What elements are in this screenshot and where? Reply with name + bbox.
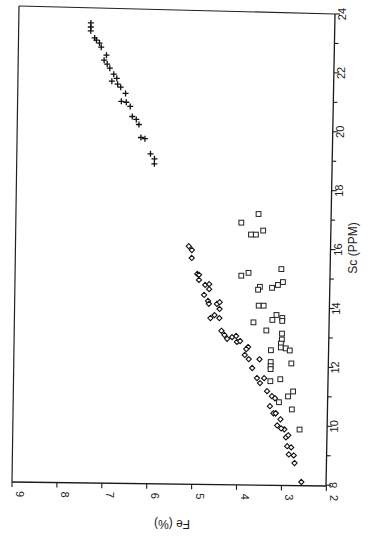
square-marker bbox=[256, 287, 261, 292]
fe-tick-label: 7 bbox=[104, 492, 116, 498]
plus-marker bbox=[142, 136, 148, 142]
square-marker bbox=[278, 345, 283, 350]
data-points bbox=[88, 20, 304, 485]
plus-marker bbox=[88, 28, 94, 34]
plus-marker bbox=[127, 103, 133, 109]
square-marker bbox=[261, 303, 266, 308]
diamond-marker bbox=[267, 404, 272, 409]
diamond-marker bbox=[257, 381, 262, 386]
square-marker bbox=[239, 273, 244, 278]
fe-axis-ticks: 23456789 bbox=[12, 482, 340, 501]
square-marker bbox=[280, 319, 285, 324]
diamond-marker bbox=[278, 417, 283, 422]
diamond-marker bbox=[217, 306, 222, 311]
plus-marker bbox=[147, 151, 153, 157]
sc-tick-label: 20 bbox=[334, 126, 346, 138]
scatter-chart: 23456789 81012141618202224 Fe (%) Sc (PP… bbox=[0, 0, 373, 547]
square-marker bbox=[291, 389, 296, 394]
plus-marker bbox=[138, 134, 144, 140]
diamond-marker bbox=[242, 352, 247, 357]
fe-tick-label: 2 bbox=[328, 495, 340, 501]
sc-tick-label: 22 bbox=[335, 67, 347, 79]
square-marker bbox=[274, 313, 279, 318]
sc-tick-label: 16 bbox=[332, 243, 344, 255]
square-marker bbox=[287, 348, 292, 353]
square-marker bbox=[270, 318, 275, 323]
diamond-marker bbox=[292, 460, 297, 465]
sc-tick-label: 18 bbox=[333, 185, 345, 197]
square-marker bbox=[278, 377, 283, 382]
plus-marker bbox=[123, 99, 129, 105]
plus-marker bbox=[111, 71, 117, 77]
diamond-marker bbox=[254, 375, 259, 380]
sc-tick-label: 8 bbox=[327, 482, 339, 488]
fe-tick-label: 9 bbox=[14, 491, 26, 497]
diamond-marker bbox=[189, 255, 194, 260]
sc-axis-title: Sc (PPM) bbox=[346, 222, 360, 273]
square-marker bbox=[268, 379, 273, 384]
square-marker bbox=[280, 331, 285, 336]
plus-marker bbox=[115, 81, 121, 87]
diamond-marker bbox=[264, 389, 269, 394]
diamond-marker bbox=[291, 453, 296, 458]
square-marker bbox=[264, 328, 269, 333]
fe-axis-line bbox=[12, 482, 326, 486]
sc-tick-label: 14 bbox=[330, 302, 342, 314]
diamond-marker bbox=[196, 277, 201, 282]
square-marker bbox=[276, 283, 281, 288]
plus-marker bbox=[109, 78, 115, 84]
square-marker bbox=[286, 394, 291, 399]
plus-marker bbox=[118, 84, 124, 90]
square-marker bbox=[279, 267, 284, 272]
diamond-marker bbox=[207, 287, 212, 292]
diamond-marker bbox=[262, 376, 267, 381]
plus-marker bbox=[151, 161, 157, 167]
sc-tick-label: 12 bbox=[329, 361, 341, 373]
square-marker bbox=[239, 220, 244, 225]
diamond-marker bbox=[286, 452, 291, 457]
square-marker bbox=[268, 367, 273, 372]
square-marker bbox=[249, 232, 254, 237]
sc-tick-label: 10 bbox=[328, 420, 340, 432]
square-marker bbox=[251, 320, 256, 325]
square-marker bbox=[269, 348, 274, 353]
diamond-marker bbox=[201, 292, 206, 297]
square-marker bbox=[246, 270, 251, 275]
diamond-marker bbox=[246, 357, 251, 362]
fe-tick-label: 5 bbox=[194, 493, 206, 499]
plot-border-left bbox=[12, 6, 19, 482]
square-marker bbox=[297, 427, 302, 432]
plot-border bbox=[19, 6, 335, 14]
fe-axis-title: Fe (%) bbox=[154, 517, 190, 531]
square-marker bbox=[281, 280, 286, 285]
plus-marker bbox=[129, 113, 135, 119]
diamond-marker bbox=[219, 328, 224, 333]
diamond-marker bbox=[299, 479, 304, 484]
fe-tick-label: 4 bbox=[239, 494, 251, 500]
sc-axis-ticks: 81012141618202224 bbox=[326, 8, 348, 488]
diamond-marker bbox=[257, 357, 262, 362]
diamond-marker bbox=[217, 316, 222, 321]
diamond-marker bbox=[250, 365, 255, 370]
plus-marker bbox=[118, 98, 124, 104]
square-marker bbox=[289, 361, 294, 366]
plot-frame bbox=[12, 6, 335, 486]
square-marker bbox=[261, 228, 266, 233]
square-marker bbox=[256, 212, 261, 217]
square-marker bbox=[254, 232, 259, 237]
square-marker bbox=[277, 400, 282, 405]
fe-tick-label: 8 bbox=[59, 492, 71, 498]
square-marker bbox=[289, 407, 294, 412]
square-marker bbox=[256, 303, 261, 308]
sc-tick-label: 24 bbox=[336, 8, 348, 20]
fe-tick-label: 3 bbox=[283, 494, 295, 500]
fe-tick-label: 6 bbox=[149, 493, 161, 499]
plus-marker bbox=[123, 90, 129, 96]
plus-marker bbox=[114, 75, 120, 81]
square-marker bbox=[270, 285, 275, 290]
